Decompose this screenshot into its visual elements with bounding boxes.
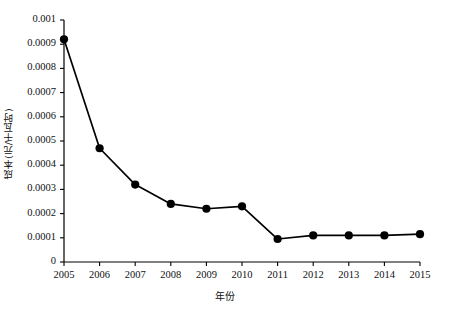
data-point xyxy=(96,144,104,152)
data-point xyxy=(131,180,139,188)
y-tick-label: 0.0002 xyxy=(0,208,56,219)
y-tick-label: 0.0004 xyxy=(0,159,56,170)
data-point xyxy=(345,231,353,239)
data-point xyxy=(309,231,317,239)
data-point xyxy=(274,235,282,243)
y-tick-label: 0.0007 xyxy=(0,87,56,98)
y-tick-label: 0.001 xyxy=(0,14,56,25)
x-tick-label: 2015 xyxy=(396,270,444,281)
y-tick-label: 0.0005 xyxy=(0,135,56,146)
data-point xyxy=(380,231,388,239)
y-tick-label: 0.0008 xyxy=(0,62,56,73)
data-point xyxy=(238,202,246,210)
data-point xyxy=(202,205,210,213)
y-tick-label: 0.0003 xyxy=(0,183,56,194)
data-point xyxy=(60,35,68,43)
y-tick-label: 0.0009 xyxy=(0,38,56,49)
data-point xyxy=(416,230,424,238)
series-markers xyxy=(60,35,424,243)
plot-area xyxy=(0,0,450,314)
axes xyxy=(64,20,420,262)
data-point xyxy=(167,200,175,208)
y-tick-label: 0 xyxy=(0,256,56,267)
chart-figure: 成本(元/千瓦时) 0.0010.00090.00080.00070.00060… xyxy=(0,0,450,314)
y-tick-label: 0.0006 xyxy=(0,111,56,122)
y-tick-label: 0.0001 xyxy=(0,232,56,243)
x-axis-title: 年份 xyxy=(0,288,450,303)
